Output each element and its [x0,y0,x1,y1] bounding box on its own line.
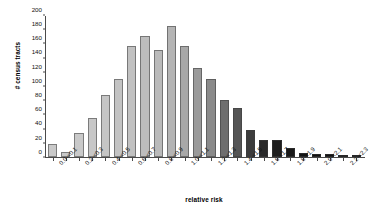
bar-slot [323,16,336,157]
x-tick-mark [105,158,106,161]
y-tick-mark [43,29,46,30]
x-tick-label: 0.4-<0.5 [111,162,115,166]
bar[interactable] [180,46,189,157]
x-tick-mark [343,158,344,161]
bar[interactable] [154,50,163,157]
bar-series [46,16,363,157]
x-tick-label: 1.2-<1.3 [217,162,221,166]
bar[interactable] [127,46,136,157]
bar[interactable] [140,36,149,157]
bar-slot [191,16,204,157]
y-tick-label: 0 [39,149,42,155]
y-tick-mark [43,157,46,158]
y-tick-label: 140 [32,49,42,55]
y-tick-mark [43,128,46,129]
x-tick-label: 0.0-<0.1 [58,162,62,166]
y-tick-label: 200 [32,7,42,13]
bar-slot [336,16,349,157]
bar-slot [257,16,270,157]
x-tick-mark [79,158,80,161]
bar[interactable] [338,155,347,157]
bar[interactable] [167,26,176,157]
bar-slot [218,16,231,157]
bar-slot [46,16,59,157]
y-tick-label: 100 [32,78,42,84]
x-tick-mark [132,158,133,161]
x-tick-label: 2.0-<2.1 [323,162,327,166]
bar-slot [138,16,151,157]
x-tick-mark [237,158,238,161]
y-tick-mark [43,15,46,16]
y-tick-label: 160 [32,35,42,41]
histogram-chart: # census tracts 020406080100120140160180… [0,0,369,215]
y-tick-mark [43,43,46,44]
x-tick-label: 0.8-<0.9 [164,162,168,166]
bar-slot [165,16,178,157]
bar-slot [86,16,99,157]
bar-slot [310,16,323,157]
x-tick-mark [185,158,186,161]
bar[interactable] [206,79,215,157]
x-tick-label: 0.6-<0.7 [137,162,141,166]
bar-slot [99,16,112,157]
x-tick-label: 1.6-<1.7 [270,162,274,166]
bar-slot [284,16,297,157]
y-tick-mark [43,57,46,58]
bar-slot [125,16,138,157]
x-tick-label: 0.2-<0.3 [84,162,88,166]
y-tick-label: 20 [35,135,42,141]
y-tick-mark [43,86,46,87]
x-tick-mark [264,158,265,161]
bar[interactable] [48,144,57,157]
bar-slot [350,16,363,157]
bar[interactable] [114,79,123,157]
x-axis-tick-labels: 0.0-<0.10.2-<0.30.4-<0.50.6-<0.70.8-<0.9… [46,162,364,194]
bar-slot [270,16,283,157]
bar[interactable] [193,68,202,157]
bar-slot [204,16,217,157]
y-tick-label: 180 [32,21,42,27]
y-tick-mark [43,114,46,115]
x-axis-title: relative risk [45,196,363,203]
x-tick-mark [317,158,318,161]
x-tick-label: 1.8-<1.9 [296,162,300,166]
bar-slot [231,16,244,157]
x-tick-mark [158,158,159,161]
x-tick-mark [211,158,212,161]
bar-slot [297,16,310,157]
x-tick-label: 1.4-<1.5 [243,162,247,166]
bar-slot [178,16,191,157]
x-tick-mark [290,158,291,161]
y-tick-mark [43,100,46,101]
x-tick-label: 2.2-<2.3 [349,162,353,166]
bar-slot [72,16,85,157]
y-tick-label: 60 [35,106,42,112]
bar[interactable] [74,133,83,157]
bar-slot [152,16,165,157]
x-tick-label: 1.0-<1.1 [190,162,194,166]
bar-slot [244,16,257,157]
y-tick-label: 40 [35,120,42,126]
bar-slot [59,16,72,157]
bar[interactable] [312,154,321,157]
y-tick-label: 120 [32,64,42,70]
y-tick-mark [43,71,46,72]
y-tick-mark [43,142,46,143]
y-tick-label: 80 [35,92,42,98]
plot-area: 020406080100120140160180200 [45,16,363,158]
x-tick-mark [53,158,54,161]
y-axis-title: # census tracts [14,18,21,114]
bar-slot [112,16,125,157]
